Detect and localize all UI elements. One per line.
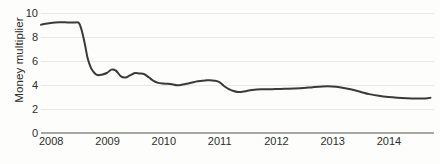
x-tick-2008: 2008: [39, 135, 63, 147]
x-tick-2010: 2010: [152, 135, 176, 147]
y-tick-4: 4: [16, 79, 38, 91]
money-multiplier-chart: Money multiplier 1086420 200820092010201…: [0, 0, 440, 164]
x-axis-tick-labels: 2008200920102011201220132014: [41, 135, 440, 155]
x-tick-2011: 2011: [208, 135, 232, 147]
x-tick-2014: 2014: [377, 135, 401, 147]
x-tick-2013: 2013: [320, 135, 344, 147]
y-tick-2: 2: [16, 103, 38, 115]
y-tick-10: 10: [16, 7, 38, 19]
y-tick-0: 0: [16, 127, 38, 139]
y-axis-tick-labels: 1086420: [10, 0, 38, 164]
y-tick-8: 8: [16, 31, 38, 43]
y-tick-6: 6: [16, 55, 38, 67]
x-tick-2009: 2009: [95, 135, 119, 147]
x-tick-2012: 2012: [264, 135, 288, 147]
